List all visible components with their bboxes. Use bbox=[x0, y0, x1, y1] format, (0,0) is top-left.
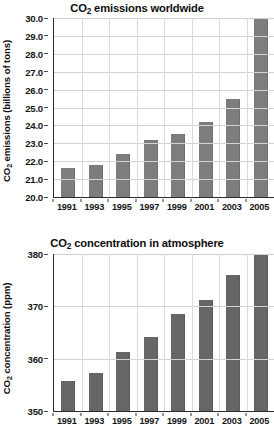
x-tick-label: 2003 bbox=[222, 416, 242, 426]
x-tick-label: 1995 bbox=[112, 416, 132, 426]
x-tick-mark bbox=[80, 413, 81, 416]
bar-1993 bbox=[89, 373, 103, 411]
gridline-vertical bbox=[164, 18, 165, 197]
y-tick-label: 370 bbox=[28, 301, 43, 312]
y-tick-mark bbox=[44, 143, 48, 144]
x-tick-label: 2003 bbox=[222, 202, 242, 212]
x-tick-mark bbox=[245, 413, 246, 416]
x-tick-mark bbox=[53, 413, 54, 416]
y-tick-mark bbox=[44, 89, 48, 90]
plot-area-concentration bbox=[53, 254, 274, 412]
y-tick-mark bbox=[44, 125, 48, 126]
gridline-vertical bbox=[219, 18, 220, 197]
x-tick-mark bbox=[163, 413, 164, 416]
x-tick-label: 1999 bbox=[167, 416, 187, 426]
cut-off-caption bbox=[30, 426, 260, 431]
y-tick-mark bbox=[44, 411, 48, 412]
x-tick-mark bbox=[108, 413, 109, 416]
y-tick-mark bbox=[44, 254, 48, 255]
y-tick-mark bbox=[44, 71, 48, 72]
y-tick-label: 350 bbox=[28, 406, 43, 417]
x-tick-label: 1997 bbox=[139, 416, 159, 426]
y-axis-label-concentration: CO2 concentration (ppm) bbox=[1, 256, 12, 421]
y-tick-label: 21.0 bbox=[25, 174, 43, 185]
x-tick-label: 2001 bbox=[194, 202, 214, 212]
bar-2003 bbox=[226, 99, 240, 197]
x-tick-label: 1991 bbox=[57, 416, 77, 426]
gridline-vertical bbox=[137, 254, 138, 411]
gridline-vertical bbox=[82, 18, 83, 197]
x-tick-label: 2005 bbox=[249, 202, 269, 212]
x-tick-label: 2001 bbox=[194, 416, 214, 426]
y-axis-label-emissions: CO2 emissions (billions of tons) bbox=[1, 16, 12, 206]
x-tick-mark bbox=[218, 413, 219, 416]
bar-1999 bbox=[171, 314, 185, 411]
y-tick-label: 30.0 bbox=[25, 13, 43, 24]
x-tick-mark bbox=[190, 413, 191, 416]
y-tick-label: 24.0 bbox=[25, 120, 43, 131]
x-tick-mark bbox=[135, 199, 136, 202]
gridline-vertical bbox=[247, 254, 248, 411]
x-tick-label: 1993 bbox=[84, 416, 104, 426]
y-tick-mark bbox=[44, 179, 48, 180]
gridline-vertical bbox=[82, 254, 83, 411]
y-axis-ticks-emissions: 30.029.028.027.026.025.024.023.022.021.0… bbox=[16, 18, 48, 198]
gridline-vertical bbox=[247, 18, 248, 197]
bar-1993 bbox=[89, 165, 103, 197]
x-tick-mark bbox=[218, 199, 219, 202]
chart-co2-emissions-worldwide: CO2 emissions worldwide CO2 emissions (b… bbox=[0, 0, 274, 216]
x-tick-label: 1995 bbox=[112, 202, 132, 212]
plot-area-emissions bbox=[53, 18, 274, 198]
bar-2003 bbox=[226, 275, 240, 411]
gridline-vertical bbox=[164, 254, 165, 411]
bar-1995 bbox=[116, 352, 130, 411]
bar-1997 bbox=[144, 337, 158, 411]
gridline-vertical bbox=[137, 18, 138, 197]
y-axis-ticks-concentration: 380370360350 bbox=[16, 254, 48, 412]
y-tick-mark bbox=[44, 358, 48, 359]
gridline-vertical bbox=[192, 18, 193, 197]
y-tick-mark bbox=[44, 197, 48, 198]
y-tick-label: 27.0 bbox=[25, 66, 43, 77]
y-tick-label: 28.0 bbox=[25, 48, 43, 59]
x-tick-mark bbox=[190, 199, 191, 202]
x-tick-mark bbox=[245, 199, 246, 202]
bar-1997 bbox=[144, 140, 158, 197]
y-tick-mark bbox=[44, 35, 48, 36]
x-tick-mark bbox=[80, 199, 81, 202]
y-tick-label: 23.0 bbox=[25, 138, 43, 149]
x-tick-label: 1997 bbox=[139, 202, 159, 212]
y-tick-label: 25.0 bbox=[25, 102, 43, 113]
x-tick-mark bbox=[135, 413, 136, 416]
x-tick-mark bbox=[108, 199, 109, 202]
y-tick-label: 29.0 bbox=[25, 30, 43, 41]
x-axis-ticks-emissions: 19911993199519971999200120032005 bbox=[53, 199, 274, 215]
y-tick-label: 22.0 bbox=[25, 156, 43, 167]
bar-2001 bbox=[199, 122, 213, 197]
x-tick-mark bbox=[163, 199, 164, 202]
y-tick-mark bbox=[44, 107, 48, 108]
x-tick-label: 1991 bbox=[57, 202, 77, 212]
x-tick-label: 2005 bbox=[249, 416, 269, 426]
y-tick-label: 380 bbox=[28, 249, 43, 260]
y-tick-mark bbox=[44, 306, 48, 307]
bar-1991 bbox=[61, 381, 75, 411]
chart-co2-concentration-in-atmosphere: CO2 concentration in atmosphere CO2 conc… bbox=[0, 233, 274, 432]
bar-2005 bbox=[254, 254, 268, 411]
chart-title-concentration: CO2 concentration in atmosphere bbox=[0, 237, 274, 249]
y-tick-mark bbox=[44, 18, 48, 19]
x-tick-mark bbox=[53, 199, 54, 202]
gridline-vertical bbox=[219, 254, 220, 411]
bar-1991 bbox=[61, 168, 75, 197]
bar-2001 bbox=[199, 300, 213, 411]
y-tick-mark bbox=[44, 161, 48, 162]
y-tick-mark bbox=[44, 53, 48, 54]
gridline-vertical bbox=[109, 18, 110, 197]
gridline-vertical bbox=[192, 254, 193, 411]
x-tick-label: 1999 bbox=[167, 202, 187, 212]
y-tick-label: 20.0 bbox=[25, 192, 43, 203]
y-tick-label: 360 bbox=[28, 353, 43, 364]
y-tick-label: 26.0 bbox=[25, 84, 43, 95]
gridline-vertical bbox=[109, 254, 110, 411]
x-tick-label: 1993 bbox=[84, 202, 104, 212]
